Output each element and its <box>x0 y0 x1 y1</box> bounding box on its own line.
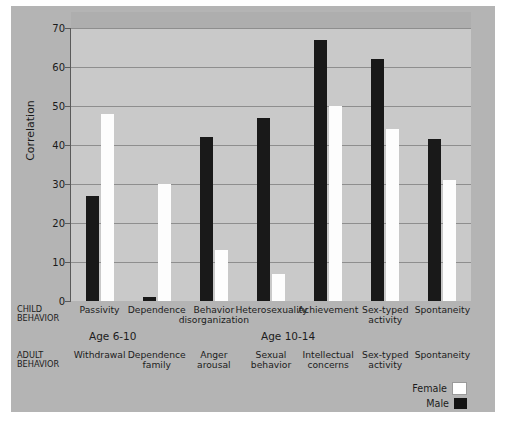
bar-male-achievement <box>314 40 327 301</box>
gridline <box>71 106 471 107</box>
y-axis-line <box>70 28 71 302</box>
y-axis-ticks: 010203040506070 <box>39 28 65 301</box>
bar-female-achievement <box>329 106 342 301</box>
legend-female-swatch-icon <box>452 382 467 395</box>
age-band-label: Age 10-14 <box>261 330 315 342</box>
legend-item-female: Female <box>412 382 467 395</box>
bar-male-passivity <box>86 196 99 301</box>
y-tick-mark <box>65 223 70 224</box>
legend-male-swatch-icon <box>454 398 467 409</box>
x-label-line2: activity <box>350 360 421 370</box>
y-tick-label: 60 <box>41 62 65 73</box>
bar-male-sex-typed-activity <box>371 59 384 301</box>
bar-female-behavior-disorganization <box>215 250 228 301</box>
plot-area <box>71 28 471 301</box>
bar-male-spontaneity <box>428 139 441 301</box>
x-label-line1: Spontaneity <box>407 305 478 315</box>
bar-female-passivity <box>101 114 114 301</box>
x-label-line2: disorganization <box>178 315 249 325</box>
bar-male-heterosexuality <box>257 118 270 301</box>
child-tag-line2: BEHAVIOR <box>17 314 73 323</box>
y-tick-mark <box>65 262 70 263</box>
legend-female-label: Female <box>412 383 447 394</box>
bar-male-behavior-disorganization <box>200 137 213 301</box>
legend-male-label: Male <box>426 398 449 409</box>
bar-female-sex-typed-activity <box>386 129 399 301</box>
y-tick-label: 30 <box>41 179 65 190</box>
plot-top-band <box>71 12 471 28</box>
gridline <box>71 262 471 263</box>
x-axis-group-label: Spontaneity <box>407 305 478 315</box>
bar-female-heterosexuality <box>272 274 285 301</box>
gridline <box>71 28 471 29</box>
y-tick-label: 10 <box>41 257 65 268</box>
gridline <box>71 223 471 224</box>
chart-legend: Female Male <box>412 382 467 412</box>
y-tick-mark <box>65 184 70 185</box>
y-tick-label: 40 <box>41 140 65 151</box>
y-tick-mark <box>65 145 70 146</box>
y-tick-label: 70 <box>41 23 65 34</box>
y-axis-label: Correlation <box>24 76 37 186</box>
x-axis-group-label: Spontaneity <box>407 350 478 360</box>
gridline <box>71 184 471 185</box>
y-tick-label: 20 <box>41 218 65 229</box>
bar-female-dependence <box>158 184 171 301</box>
gridline <box>71 145 471 146</box>
y-tick-label: 50 <box>41 101 65 112</box>
age-band-label: Age 6-10 <box>89 330 136 342</box>
y-tick-mark <box>65 301 70 302</box>
adult-tag-line2: BEHAVIOR <box>17 360 73 369</box>
chart-panel: 010203040506070 Correlation CHILD BEHAVI… <box>11 6 495 412</box>
bar-female-spontaneity <box>443 180 456 301</box>
x-label-line1: Spontaneity <box>407 350 478 360</box>
x-label-line2: activity <box>350 315 421 325</box>
gridline <box>71 67 471 68</box>
bar-male-dependence <box>143 297 156 301</box>
legend-item-male: Male <box>412 398 467 409</box>
y-tick-mark <box>65 67 70 68</box>
y-tick-mark <box>65 28 70 29</box>
y-tick-mark <box>65 106 70 107</box>
